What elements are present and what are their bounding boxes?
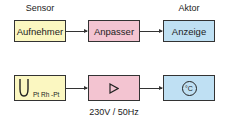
power-label: 230V / 50Hz: [78, 107, 150, 117]
anpasser-label: Anpasser: [94, 26, 134, 37]
arrow-2: [140, 31, 162, 32]
anpasser-box: Anpasser: [88, 20, 140, 42]
aktor-label: Aktor: [163, 3, 215, 13]
arrow-3: [66, 88, 87, 89]
thermocouple-box: Pt Rh -Pt: [14, 75, 66, 101]
thermocouple-icon: [18, 79, 32, 97]
thermocouple-type-label: Pt Rh -Pt: [33, 91, 59, 98]
arrow-4: [140, 88, 162, 89]
celsius-display-box: °C: [163, 75, 215, 101]
anzeige-box: Anzeige: [163, 20, 215, 42]
celsius-symbol: °C: [185, 85, 193, 92]
anzeige-label: Anzeige: [172, 26, 206, 37]
arrow-1: [66, 31, 87, 32]
aufnehmer-box: Aufnehmer: [14, 20, 66, 42]
amplifier-triangle-icon: [109, 83, 119, 94]
aufnehmer-label: Aufnehmer: [17, 26, 63, 37]
celsius-icon: °C: [182, 81, 197, 96]
amplifier-box: [88, 75, 140, 101]
sensor-label: Sensor: [14, 3, 66, 13]
